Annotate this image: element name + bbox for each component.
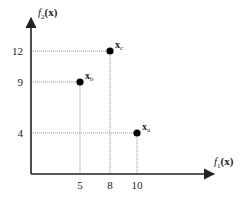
- x-tick-label: 10: [132, 179, 144, 191]
- point-label-x_c: xc: [115, 39, 123, 52]
- y-tick-labels: 4912: [12, 45, 24, 139]
- y-tick-label: 12: [12, 45, 23, 57]
- x-tick-label: 8: [107, 179, 113, 191]
- point-x_a: [133, 129, 140, 136]
- point-x_c: [106, 47, 113, 54]
- point-label-x_a: xa: [142, 121, 151, 134]
- y-axis-label: f2(x): [38, 6, 58, 21]
- y-tick-label: 9: [18, 76, 24, 88]
- projection-guides: [31, 51, 137, 174]
- x-tick-labels: 5810: [77, 179, 143, 191]
- y-tick-label: 4: [18, 127, 24, 139]
- x-tick-label: 5: [77, 179, 83, 191]
- x-axis-label: f1(x): [214, 155, 234, 170]
- objective-space-diagram: 5810 4912 xaxbxc f2(x) f1(x): [0, 0, 252, 201]
- data-points: xaxbxc: [76, 39, 151, 137]
- point-x_b: [76, 78, 83, 85]
- point-label-x_b: xb: [85, 70, 94, 83]
